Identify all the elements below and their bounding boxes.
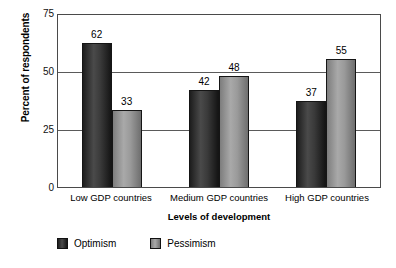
bar-group-low-gdp: 62 33 xyxy=(58,15,165,187)
bar-group-medium-gdp: 42 48 xyxy=(165,15,272,187)
y-tick-label: 0 xyxy=(30,183,54,193)
legend: Optimism Pessimism xyxy=(57,238,381,249)
bar-group-high-gdp: 37 55 xyxy=(273,15,380,187)
plot-area: 62 33 42 48 xyxy=(57,14,381,188)
bar-pessimism-high-gdp[interactable]: 55 xyxy=(326,59,356,187)
bar-value-label: 33 xyxy=(121,97,132,107)
bar-optimism-medium-gdp[interactable]: 42 xyxy=(189,90,219,187)
bar-slot: 42 xyxy=(189,15,219,187)
x-axis-category-labels: Low GDP countries Medium GDP countries H… xyxy=(57,192,381,203)
category-label-medium-gdp: Medium GDP countries xyxy=(165,192,273,203)
y-tick-label: 25 xyxy=(30,125,54,135)
bar-value-label: 42 xyxy=(198,77,209,87)
category-label-high-gdp: High GDP countries xyxy=(273,192,381,203)
y-tick-label: 75 xyxy=(30,9,54,19)
bar-value-label: 37 xyxy=(306,88,317,98)
legend-swatch-pessimism-icon xyxy=(150,238,161,249)
bar-slot: 33 xyxy=(112,15,142,187)
bar-value-label: 62 xyxy=(91,30,102,40)
bar-chart: Percent of respondents 75 50 25 0 62 33 xyxy=(0,0,396,268)
bar-groups: 62 33 42 48 xyxy=(58,15,380,187)
bar-pessimism-medium-gdp[interactable]: 48 xyxy=(219,76,249,187)
bar-optimism-low-gdp[interactable]: 62 xyxy=(82,43,112,187)
legend-swatch-optimism-icon xyxy=(57,238,68,249)
y-tick-label: 50 xyxy=(30,67,54,77)
bar-slot: 48 xyxy=(219,15,249,187)
bar-optimism-high-gdp[interactable]: 37 xyxy=(296,101,326,187)
legend-item-pessimism[interactable]: Pessimism xyxy=(150,238,215,249)
bar-value-label: 48 xyxy=(228,63,239,73)
legend-item-optimism[interactable]: Optimism xyxy=(57,238,116,249)
bar-pessimism-low-gdp[interactable]: 33 xyxy=(112,110,142,187)
legend-label-pessimism: Pessimism xyxy=(167,238,215,249)
y-axis-tick-labels: 75 50 25 0 xyxy=(28,0,54,268)
bar-slot: 55 xyxy=(326,15,356,187)
bar-slot: 62 xyxy=(82,15,112,187)
bar-slot: 37 xyxy=(296,15,326,187)
category-label-low-gdp: Low GDP countries xyxy=(57,192,165,203)
bar-value-label: 55 xyxy=(336,46,347,56)
legend-label-optimism: Optimism xyxy=(74,238,116,249)
x-axis-title: Levels of development xyxy=(57,211,381,222)
